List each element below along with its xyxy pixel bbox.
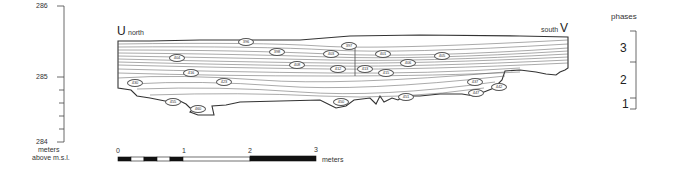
scale-label-1: 1 [182, 147, 186, 154]
scale-bar [118, 156, 316, 161]
locus-label: 447 [468, 89, 484, 97]
phase-2-label: 2 [620, 73, 627, 87]
phase-3-label: 3 [620, 41, 627, 55]
scale-label-0: 0 [116, 147, 120, 154]
locus-label: 451 [398, 93, 414, 101]
locus-label: 415 [378, 69, 394, 77]
locus-label: 442 [491, 83, 507, 91]
locus-label: 406 [400, 59, 416, 67]
locus-label: 430 [127, 79, 143, 87]
scale-unit: meters [322, 156, 343, 163]
phases-title: phases [611, 12, 637, 21]
locus-label: 460 [190, 105, 206, 113]
locus-label: 396 [238, 38, 254, 46]
phase-1-label: 1 [622, 97, 629, 111]
locus-label: 455 [165, 98, 181, 106]
locus-label: 416 [183, 69, 199, 77]
elevation-axis [57, 6, 64, 142]
locus-label: 397 [341, 42, 357, 50]
section-marker-right: V [560, 21, 568, 35]
locus-label: 401 [375, 50, 391, 58]
section-drawing [0, 0, 674, 174]
locus-label: 450 [333, 98, 349, 106]
section-direction-right: south [541, 26, 558, 33]
locus-label: 404 [169, 54, 185, 62]
locus-label: 398 [269, 48, 285, 56]
elevation-unit-line2: above m.s.l. [32, 154, 70, 161]
locus-label: 413 [357, 65, 373, 73]
elevation-tick-284: 284 [36, 138, 48, 145]
phase-bracket [630, 31, 636, 109]
section-direction-left: north [128, 29, 144, 36]
elevation-unit-line1: meters [38, 146, 59, 153]
scale-label-2: 2 [248, 147, 252, 154]
locus-label: 412 [330, 65, 346, 73]
elevation-tick-285: 285 [36, 73, 48, 80]
elevation-tick-286: 286 [36, 2, 48, 9]
locus-label: 423 [216, 78, 232, 86]
section-marker-left: U [117, 24, 126, 38]
locus-label: 405 [434, 52, 450, 60]
locus-label: 408 [289, 61, 305, 69]
locus-label: 403 [323, 50, 339, 58]
scale-label-3: 3 [314, 146, 318, 153]
locus-label: 437 [467, 78, 483, 86]
